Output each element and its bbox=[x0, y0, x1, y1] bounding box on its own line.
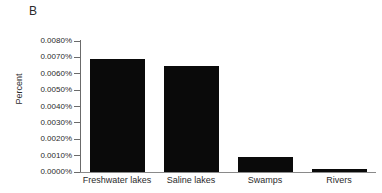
figure-panel-b: B Percent 0.0000%0.0010%0.0020%0.0030%0.… bbox=[0, 0, 382, 193]
x-axis-tick-label: Rivers bbox=[269, 175, 382, 186]
x-axis-line bbox=[80, 172, 376, 173]
y-axis-tick-label: 0.0030% bbox=[12, 118, 72, 127]
bar-rivers bbox=[312, 169, 367, 172]
bar-saline-lakes bbox=[164, 66, 219, 172]
y-axis-tick-label: 0.0010% bbox=[12, 151, 72, 160]
y-axis-tick-label: 0.0060% bbox=[12, 69, 72, 78]
y-axis-tick-label: 0.0050% bbox=[12, 85, 72, 94]
y-axis-tick-label: 0.0020% bbox=[12, 134, 72, 143]
panel-label: B bbox=[29, 4, 37, 18]
y-axis-tick-label: 0.0070% bbox=[12, 52, 72, 61]
plot-area bbox=[80, 41, 376, 172]
y-axis-tick-label: 0.0040% bbox=[12, 102, 72, 111]
bar-freshwater-lakes bbox=[90, 59, 145, 172]
y-axis-tick-label: 0.0080% bbox=[12, 36, 72, 45]
bar-swamps bbox=[238, 157, 293, 172]
